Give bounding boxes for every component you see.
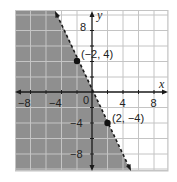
- point-label-2-neg4: (2, −4): [112, 112, 144, 124]
- tick-label-x-8: 8: [151, 97, 157, 109]
- point-2-neg4: [104, 120, 110, 126]
- tick-label-x-neg4: −4: [49, 97, 62, 109]
- tick-label-y-neg4: −4: [70, 117, 83, 129]
- inequality-graph: y x 0 −8 −4 4 8 8 −4 −8 (−2, 4) (2, −4): [0, 0, 177, 182]
- tick-label-y-8: 8: [80, 21, 86, 33]
- y-axis-label: y: [96, 8, 103, 22]
- tick-label-x-4: 4: [120, 97, 126, 109]
- origin-label: 0: [83, 94, 89, 106]
- x-axis-label: x: [158, 77, 165, 91]
- point-label-neg2-4: (−2, 4): [81, 48, 113, 60]
- tick-label-x-neg8: −8: [18, 97, 31, 109]
- tick-label-y-neg8: −8: [70, 148, 83, 160]
- point-neg2-4: [74, 58, 80, 64]
